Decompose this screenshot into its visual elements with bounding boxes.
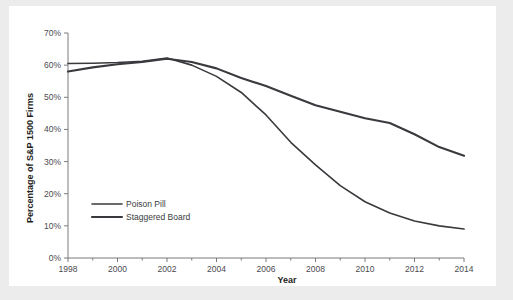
chart-plot-area: 70% 60% 50% 40% 30% 20% 10% 0% 1998 2000…	[9, 6, 496, 286]
y-tick-label: 60%	[44, 60, 61, 70]
x-tick-label: 2010	[356, 264, 375, 274]
y-tick-label: 40%	[44, 124, 61, 134]
y-tick-label: 0%	[49, 253, 62, 263]
y-tick-label: 10%	[44, 221, 61, 231]
line-chart-svg: 70% 60% 50% 40% 30% 20% 10% 0% 1998 2000…	[9, 6, 496, 286]
x-axis-tick-labels: 1998 2000 2002 2004 2006 2008 2010 2012 …	[59, 264, 474, 274]
chart-figure: 70% 60% 50% 40% 30% 20% 10% 0% 1998 2000…	[9, 6, 496, 286]
x-tick-label: 2008	[306, 264, 325, 274]
y-axis-tick-labels: 70% 60% 50% 40% 30% 20% 10% 0%	[44, 28, 61, 263]
x-axis-ticks	[68, 258, 464, 262]
legend-label-staggered-board: Staggered Board	[126, 212, 191, 222]
x-tick-label: 2012	[405, 264, 424, 274]
y-tick-label: 30%	[44, 157, 61, 167]
legend-label-poison-pill: Poison Pill	[126, 199, 166, 209]
y-tick-label: 50%	[44, 92, 61, 102]
x-axis-title: Year	[277, 275, 297, 285]
x-tick-label: 2006	[257, 264, 276, 274]
x-tick-label: 2004	[207, 264, 226, 274]
y-axis-ticks	[64, 33, 68, 258]
y-tick-label: 70%	[44, 28, 61, 38]
series-line-staggered-board	[68, 59, 464, 156]
x-tick-label: 2000	[108, 264, 127, 274]
y-axis-title: Percentage of S&P 1500 Firms	[25, 93, 35, 223]
x-tick-label: 2002	[158, 264, 177, 274]
y-tick-label: 20%	[44, 189, 61, 199]
x-tick-label: 1998	[59, 264, 78, 274]
x-tick-label: 2014	[455, 264, 474, 274]
chart-legend: Poison Pill Staggered Board	[92, 199, 191, 222]
